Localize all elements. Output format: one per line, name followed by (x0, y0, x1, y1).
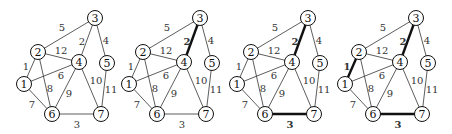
node-label: 1 (21, 78, 28, 91)
node-label: 2 (248, 46, 255, 59)
node-label: 1 (234, 78, 241, 91)
edge-weight-label: 3 (179, 119, 185, 130)
edge-weight-label: 6 (58, 70, 64, 81)
edge-weight-label: 5 (272, 22, 278, 33)
node-label: 5 (104, 57, 111, 70)
edge-weight-label: 3 (395, 119, 402, 130)
node-7: 7 (94, 107, 109, 122)
edge-4-7 (184, 62, 206, 114)
node-1: 1 (17, 77, 32, 92)
node-label: 5 (425, 57, 432, 70)
edge-weight-label: 1 (236, 61, 242, 72)
edge-weight-label: 9 (387, 88, 393, 99)
node-label: 7 (311, 108, 318, 121)
edge-weight-label: 2 (79, 36, 85, 47)
edge-weight-label: 6 (271, 70, 277, 81)
edge-weight-label: 10 (303, 75, 316, 86)
node-label: 6 (154, 108, 161, 121)
edge-weight-label: 7 (134, 99, 140, 110)
edge-weight-label: 10 (90, 75, 103, 86)
node-6: 6 (258, 107, 273, 122)
node-label: 7 (419, 108, 426, 121)
edge-weight-label: 4 (208, 35, 214, 46)
node-label: 3 (413, 12, 420, 25)
node-5: 5 (100, 56, 115, 71)
edge-weight-label: 1 (128, 61, 134, 72)
node-7: 7 (415, 107, 430, 122)
edge-weight-label: 10 (195, 75, 208, 86)
node-label: 5 (209, 57, 216, 70)
edge-weight-label: 4 (103, 35, 109, 46)
edge-weight-label: 6 (379, 70, 385, 81)
edge-weight-label: 8 (47, 83, 53, 94)
node-1: 1 (338, 77, 353, 92)
node-label: 1 (126, 78, 133, 91)
edge-weight-label: 1 (23, 61, 29, 72)
node-4: 4 (393, 55, 408, 70)
graph-panel-step-1: 1234567891011121234567 (17, 11, 118, 130)
node-7: 7 (307, 107, 322, 122)
edge-weight-label: 5 (164, 22, 170, 33)
edge-weight-label: 2 (184, 36, 191, 47)
graph-panel-step-3: 1234567891011121234567 (230, 11, 331, 130)
node-3: 3 (88, 11, 103, 26)
edge-weight-label: 11 (210, 84, 223, 95)
node-label: 4 (397, 56, 404, 69)
edge-weight-label: 8 (260, 83, 266, 94)
edge-weight-label: 9 (171, 88, 177, 99)
edge-weight-label: 8 (368, 83, 374, 94)
edge-weight-label: 11 (426, 84, 439, 95)
node-4: 4 (72, 55, 87, 70)
node-5: 5 (205, 56, 220, 71)
node-label: 2 (35, 46, 42, 59)
edge-weight-label: 7 (242, 99, 248, 110)
edge-weight-label: 12 (376, 45, 389, 56)
edge-weight-label: 7 (29, 99, 35, 110)
edge-weight-label: 12 (160, 45, 173, 56)
node-4: 4 (177, 55, 192, 70)
node-2: 2 (136, 45, 151, 60)
edge-weight-label: 8 (152, 83, 158, 94)
node-label: 6 (49, 108, 56, 121)
diagram-canvas: 1234567891011121234567123456789101112123… (0, 0, 452, 134)
edge-weight-label: 12 (268, 45, 281, 56)
edge-weight-label: 3 (287, 119, 294, 130)
node-label: 2 (140, 46, 147, 59)
edge-weight-label: 2 (292, 36, 299, 47)
node-label: 4 (289, 56, 296, 69)
node-label: 3 (197, 12, 204, 25)
node-2: 2 (352, 45, 367, 60)
node-label: 6 (262, 108, 269, 121)
node-label: 3 (305, 12, 312, 25)
edge-weight-label: 10 (411, 75, 424, 86)
node-7: 7 (199, 107, 214, 122)
node-label: 7 (98, 108, 105, 121)
graph-panel-step-2: 1234567891011121234567 (122, 11, 223, 130)
kruskal-mst-diagram: 1234567891011121234567123456789101112123… (0, 0, 452, 134)
edge-weight-label: 9 (66, 88, 72, 99)
node-label: 3 (92, 12, 99, 25)
edge-4-7 (79, 62, 101, 114)
node-3: 3 (193, 11, 208, 26)
node-4: 4 (285, 55, 300, 70)
node-6: 6 (45, 107, 60, 122)
node-label: 6 (370, 108, 377, 121)
node-label: 4 (76, 56, 83, 69)
edge-weight-label: 5 (59, 22, 65, 33)
edge-weight-label: 9 (279, 88, 285, 99)
node-3: 3 (409, 11, 424, 26)
node-label: 5 (317, 57, 324, 70)
edge-weight-label: 1 (344, 61, 351, 72)
node-6: 6 (366, 107, 381, 122)
edge-weight-label: 11 (105, 84, 118, 95)
edge-weight-label: 6 (163, 70, 169, 81)
edge-4-7 (292, 62, 314, 114)
node-1: 1 (122, 77, 137, 92)
node-5: 5 (421, 56, 436, 71)
node-label: 4 (181, 56, 188, 69)
edge-4-7 (400, 62, 422, 114)
node-6: 6 (150, 107, 165, 122)
node-label: 1 (342, 78, 349, 91)
node-label: 2 (356, 46, 363, 59)
edge-weight-label: 7 (350, 99, 356, 110)
